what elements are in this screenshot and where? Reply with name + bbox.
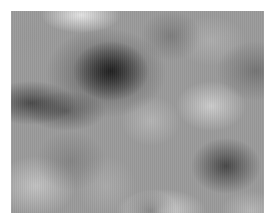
texture-striations xyxy=(11,11,264,213)
image-canvas: Grayscale cloud / fractal noise texture xyxy=(0,0,279,224)
cloud-noise-texture xyxy=(11,11,264,213)
